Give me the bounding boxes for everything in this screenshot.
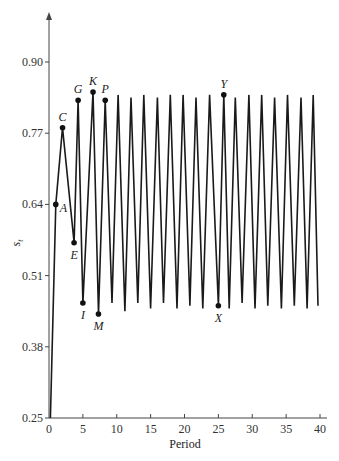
y-tick-label: 0.25 <box>22 411 43 425</box>
y-tick-label: 0.64 <box>22 197 43 211</box>
x-tick-label: 30 <box>246 422 258 436</box>
point-marker-g <box>75 98 81 104</box>
y-axis-title-subscript: t <box>16 239 25 242</box>
point-marker-e <box>71 240 77 246</box>
x-tick-label: 0 <box>46 422 52 436</box>
point-label-y: Y <box>220 77 228 91</box>
point-label-p: P <box>101 82 110 96</box>
data-series <box>50 92 318 418</box>
y-tick-label: 0.90 <box>22 55 43 69</box>
y-tick-label: 0.77 <box>22 126 43 140</box>
point-label-m: M <box>92 319 104 333</box>
x-tick-label: 15 <box>145 422 157 436</box>
x-tick-label: 40 <box>314 422 326 436</box>
series-line <box>50 92 318 418</box>
x-tick-label: 20 <box>179 422 191 436</box>
point-label-c: C <box>59 110 68 124</box>
point-label-g: G <box>74 82 83 96</box>
point-marker-i <box>80 300 86 306</box>
point-marker-m <box>96 311 102 317</box>
x-tick-label: 25 <box>212 422 224 436</box>
point-marker-a <box>53 202 59 208</box>
x-axis-title: Period <box>169 437 200 451</box>
point-label-e: E <box>69 248 78 262</box>
x-tick-label: 5 <box>80 422 86 436</box>
point-label-k: K <box>88 74 98 88</box>
point-label-a: A <box>59 201 68 215</box>
point-label-x: X <box>214 311 223 325</box>
y-tick-label: 0.38 <box>22 340 43 354</box>
x-tick-label: 35 <box>280 422 292 436</box>
point-label-i: I <box>80 308 86 322</box>
point-marker-y <box>221 92 227 98</box>
chart-canvas: 0.250.380.510.640.770.900510152025303540… <box>0 0 339 461</box>
point-marker-p <box>102 98 108 104</box>
x-tick-label: 10 <box>111 422 123 436</box>
y-axis-arrow-icon <box>46 12 52 20</box>
y-axis-title: st <box>9 239 25 247</box>
point-marker-x <box>216 303 222 309</box>
point-marker-k <box>90 89 96 95</box>
point-marker-c <box>60 125 66 131</box>
y-tick-label: 0.51 <box>22 269 43 283</box>
